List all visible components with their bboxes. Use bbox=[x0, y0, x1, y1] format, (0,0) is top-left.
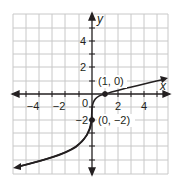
point-1-0-label: (1, 0) bbox=[98, 75, 124, 87]
y-tick-neg2: −2 bbox=[75, 114, 88, 126]
axes bbox=[12, 13, 170, 175]
x-tick-2: 2 bbox=[115, 100, 121, 112]
point-0-neg2-label: (0, −2) bbox=[98, 114, 130, 126]
y-tick-4: 4 bbox=[80, 35, 86, 47]
point-1-0 bbox=[102, 91, 108, 97]
curve-arrow-left bbox=[13, 163, 21, 170]
y-tick-2: 2 bbox=[80, 61, 86, 73]
graph: y x −4 −2 0 2 4 4 2 −2 (1, 0) (0, −2) bbox=[0, 0, 176, 184]
point-0-neg2 bbox=[89, 117, 95, 123]
x-tick-neg2: −2 bbox=[53, 100, 66, 112]
x-tick-neg4: −4 bbox=[27, 100, 40, 112]
x-tick-4: 4 bbox=[141, 100, 147, 112]
origin-label: 0 bbox=[82, 97, 88, 109]
y-axis-label: y bbox=[96, 12, 104, 26]
